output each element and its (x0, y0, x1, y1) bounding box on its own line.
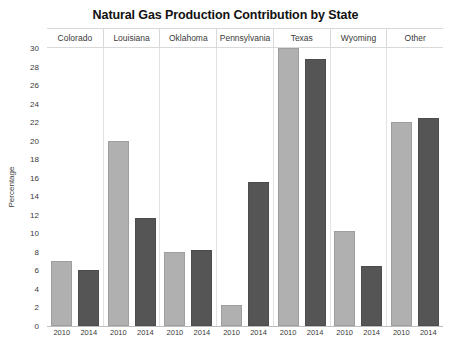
bar-other-2010 (391, 122, 412, 326)
x-group-colorado: 20102014 (47, 328, 104, 344)
x-tick-oklahoma-2010: 2010 (164, 328, 185, 344)
group-label-header: ColoradoLouisianaOklahomaPennsylvaniaTex… (47, 28, 443, 48)
y-axis-title: Percentage (7, 142, 16, 232)
bar-group-oklahoma (160, 48, 217, 326)
group-label-louisiana: Louisiana (103, 29, 160, 47)
bar-pennsylvania-2014 (248, 182, 269, 326)
x-tick-colorado-2014: 2014 (78, 328, 99, 344)
bar-wyoming-2010 (334, 231, 355, 326)
natural-gas-production-chart: Natural Gas Production Contribution by S… (0, 0, 451, 361)
y-tick-14: 14 (30, 192, 39, 201)
x-group-wyoming: 20102014 (330, 328, 387, 344)
y-axis: Percentage 302826242220181614121086420 (0, 48, 47, 326)
x-tick-pennsylvania-2010: 2010 (221, 328, 242, 344)
plot-area (47, 48, 443, 326)
bar-group-other (386, 48, 443, 326)
x-tick-pennsylvania-2014: 2014 (248, 328, 269, 344)
x-tick-other-2010: 2010 (391, 328, 412, 344)
x-axis: 2010201420102014201020142010201420102014… (47, 328, 443, 344)
y-tick-24: 24 (30, 99, 39, 108)
group-label-pennsylvania: Pennsylvania (216, 29, 273, 47)
bars-layer (47, 48, 443, 326)
y-tick-30: 30 (30, 44, 39, 53)
y-tick-26: 26 (30, 81, 39, 90)
y-tick-18: 18 (30, 155, 39, 164)
x-tick-texas-2010: 2010 (278, 328, 299, 344)
y-tick-0: 0 (35, 322, 39, 331)
bar-louisiana-2014 (135, 218, 156, 326)
group-label-colorado: Colorado (47, 29, 103, 47)
x-tick-colorado-2010: 2010 (51, 328, 72, 344)
bar-colorado-2010 (51, 261, 72, 326)
y-tick-2: 2 (35, 303, 39, 312)
bar-other-2014 (418, 118, 439, 327)
x-group-oklahoma: 20102014 (160, 328, 217, 344)
x-tick-wyoming-2014: 2014 (361, 328, 382, 344)
y-tick-28: 28 (30, 62, 39, 71)
chart-title: Natural Gas Production Contribution by S… (0, 8, 451, 22)
bar-oklahoma-2014 (191, 250, 212, 326)
y-tick-20: 20 (30, 136, 39, 145)
y-tick-10: 10 (30, 229, 39, 238)
bar-wyoming-2014 (361, 266, 382, 326)
y-tick-16: 16 (30, 173, 39, 182)
x-group-texas: 20102014 (273, 328, 330, 344)
bar-texas-2014 (305, 59, 326, 326)
y-tick-22: 22 (30, 118, 39, 127)
x-tick-texas-2014: 2014 (305, 328, 326, 344)
group-label-texas: Texas (273, 29, 330, 47)
x-group-other: 20102014 (386, 328, 443, 344)
y-tick-6: 6 (35, 266, 39, 275)
x-tick-wyoming-2010: 2010 (334, 328, 355, 344)
x-group-pennsylvania: 20102014 (217, 328, 274, 344)
group-label-oklahoma: Oklahoma (159, 29, 216, 47)
bar-oklahoma-2010 (164, 252, 185, 326)
bar-group-louisiana (104, 48, 161, 326)
group-label-wyoming: Wyoming (330, 29, 387, 47)
x-axis-baseline (47, 326, 443, 327)
y-tick-8: 8 (35, 247, 39, 256)
bar-group-texas (273, 48, 330, 326)
bar-louisiana-2010 (108, 141, 129, 326)
y-tick-4: 4 (35, 284, 39, 293)
x-tick-louisiana-2010: 2010 (108, 328, 129, 344)
x-group-louisiana: 20102014 (104, 328, 161, 344)
y-tick-12: 12 (30, 210, 39, 219)
bar-group-colorado (47, 48, 104, 326)
bar-texas-2010 (278, 48, 299, 326)
x-tick-oklahoma-2014: 2014 (191, 328, 212, 344)
x-tick-louisiana-2014: 2014 (135, 328, 156, 344)
bar-group-pennsylvania (217, 48, 274, 326)
bar-group-wyoming (330, 48, 387, 326)
group-label-other: Other (386, 29, 443, 47)
bar-colorado-2014 (78, 270, 99, 326)
bar-pennsylvania-2010 (221, 305, 242, 326)
x-tick-other-2014: 2014 (418, 328, 439, 344)
